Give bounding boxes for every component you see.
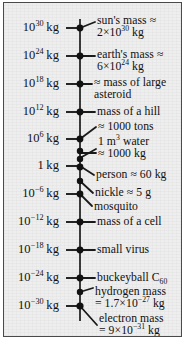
- axis-tick-label-10e18: 1018kg: [23, 77, 59, 90]
- axis-tick-label-1kg: 1kg: [37, 159, 59, 172]
- dot-water2: [77, 156, 83, 162]
- label-large-asteroid: ≈ mass of large asteroid: [94, 77, 166, 102]
- axis-tick-label-10e30: 1030kg: [23, 21, 59, 34]
- dot-asteroid: [77, 81, 84, 88]
- axis-tick-label-10e-6: 10−6kg: [22, 187, 59, 200]
- label-suns-mass: sun's mass ≈ 2×1030 kg: [97, 15, 156, 40]
- dot-buckeyball: [77, 275, 84, 282]
- axis-tick-label-10e-24: 10−24kg: [18, 271, 59, 284]
- label-nickle: nickle ≈ 5 g: [95, 187, 151, 199]
- label-mass-of-a-cell: mass of a cell: [97, 216, 162, 228]
- label-person: person ≈ 60 kg: [96, 169, 166, 181]
- label-hydrogen-mass: hydrogen mass = 1.7×10−27 kg: [95, 286, 166, 311]
- label-mosquito: mosquito: [94, 201, 138, 213]
- dot-earth: [77, 53, 84, 60]
- label-buckeyball: buckeyball C60: [97, 272, 167, 284]
- dot-water: [77, 148, 83, 154]
- axis-tick-label-10e12: 1012kg: [23, 105, 59, 118]
- label-electron-mass: electron mass = 9×10−31 kg: [99, 313, 164, 337]
- axis-tick-label-10e-12: 10−12kg: [18, 215, 59, 228]
- dot-hydrogen: [77, 289, 83, 295]
- label-1000-tons: ≈ 1000 tons: [98, 121, 154, 133]
- label-mass-of-a-hill: mass of a hill: [97, 106, 160, 118]
- dot-cell: [77, 219, 84, 226]
- dot-hill: [77, 109, 84, 116]
- dot-mosquito: [77, 191, 84, 198]
- dot-electron: [76, 302, 83, 309]
- dot-sun: [77, 25, 84, 32]
- axis-tick-label-10e6: 106kg: [27, 132, 59, 145]
- mass-scale-figure: 1030kg 1024kg 1018kg 1012kg 106kg 1kg 10…: [0, 0, 187, 351]
- label-small-virus: small virus: [97, 244, 149, 256]
- axis-tick-label-10e-18: 10−18kg: [18, 243, 59, 256]
- dot-nickle: [77, 178, 83, 184]
- dot-virus: [77, 247, 84, 254]
- axis-tick-label-10e24: 1024kg: [23, 49, 59, 62]
- dot-person: [77, 164, 84, 171]
- label-earths-mass: earth's mass ≈ 6×1024 kg: [97, 49, 163, 74]
- label-1m3-water: 1 m3 water ≈ 1000 kg: [98, 136, 149, 161]
- dot-tons: [77, 136, 84, 143]
- figure-frame: 1030kg 1024kg 1018kg 1012kg 106kg 1kg 10…: [3, 2, 182, 337]
- axis-tick-label-10e-30: 10−30kg: [18, 299, 59, 312]
